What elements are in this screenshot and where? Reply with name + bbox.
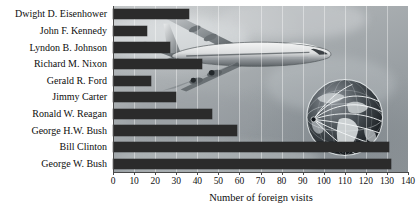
bar	[113, 159, 391, 169]
category-label: George W. Bush	[41, 159, 107, 169]
x-axis-tick	[218, 172, 219, 175]
x-axis-tick	[387, 172, 388, 175]
bar	[113, 76, 151, 86]
bar	[113, 109, 212, 119]
x-axis-tick-label: 30	[172, 176, 181, 186]
y-axis-category-labels: Dwight D. EisenhowerJohn F. KennedyLyndo…	[0, 6, 110, 172]
x-axis-tick-label: 40	[193, 176, 202, 186]
x-axis-tick-labels: 0102030405060708090100110120130140	[0, 176, 418, 190]
category-label: Bill Clinton	[59, 142, 107, 152]
bar	[113, 26, 147, 36]
bar	[113, 125, 237, 135]
category-label: Jimmy Carter	[52, 92, 107, 102]
x-axis-tick-label: 20	[150, 176, 159, 186]
x-axis-tick-label: 60	[235, 176, 244, 186]
x-axis-tick	[176, 172, 177, 175]
category-label: Lyndon B. Johnson	[29, 43, 107, 53]
x-axis-tick-label: 90	[298, 176, 307, 186]
plot-area	[113, 6, 408, 172]
x-axis-tick-label: 110	[338, 176, 352, 186]
bar	[113, 59, 202, 69]
x-axis-tick	[324, 172, 325, 175]
x-axis-tick	[134, 172, 135, 175]
x-axis-tick-label: 130	[380, 176, 394, 186]
bar	[113, 9, 189, 19]
x-axis-tick	[113, 172, 114, 175]
bar-chart: 0102030405060708090100110120130140 Dwigh…	[0, 0, 418, 219]
x-axis-tick-label: 50	[214, 176, 223, 186]
category-label: Gerald R. Ford	[47, 76, 107, 86]
x-axis-tick-label: 80	[277, 176, 286, 186]
category-label: Richard M. Nixon	[34, 59, 107, 69]
x-axis-tick-label: 140	[401, 176, 415, 186]
y-axis-line	[113, 6, 114, 173]
x-axis-tick	[155, 172, 156, 175]
x-axis-tick-label: 120	[359, 176, 373, 186]
x-axis-tick	[303, 172, 304, 175]
x-axis-tick	[345, 172, 346, 175]
x-axis-tick-label: 10	[129, 176, 138, 186]
x-axis-title: Number of foreign visits	[113, 192, 409, 203]
x-axis-tick	[261, 172, 262, 175]
x-axis-tick	[239, 172, 240, 175]
x-axis-tick-label: 70	[256, 176, 265, 186]
category-label: George H.W. Bush	[31, 126, 107, 136]
x-axis-tick	[366, 172, 367, 175]
category-label: Ronald W. Reagan	[32, 109, 107, 119]
x-axis-tick-label: 0	[111, 176, 116, 186]
x-axis-tick-label: 100	[317, 176, 331, 186]
x-axis-tick	[282, 172, 283, 175]
category-label: John F. Kennedy	[40, 26, 107, 36]
category-label: Dwight D. Eisenhower	[15, 9, 107, 19]
bar-series	[113, 6, 408, 172]
bar	[113, 92, 176, 102]
bar	[113, 42, 170, 52]
x-axis-tick	[197, 172, 198, 175]
bar	[113, 142, 389, 152]
x-axis-tick	[408, 172, 409, 175]
gridline	[408, 6, 409, 172]
